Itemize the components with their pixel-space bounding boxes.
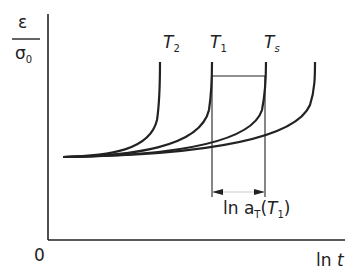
x-axis-label: ln t [316, 252, 344, 269]
curve-t2 [63, 62, 160, 157]
label-t1: T1 [210, 34, 227, 54]
label-t2: T2 [163, 34, 180, 54]
arrow-left-icon [212, 189, 223, 195]
shift-factor-label: ln aT(T1) [223, 200, 290, 220]
y-label-numerator: ε [18, 14, 27, 31]
y-label-denominator: σ0 [15, 45, 32, 65]
arrow-right-icon [254, 189, 265, 195]
label-ts: Ts [264, 34, 280, 54]
origin-label: 0 [34, 247, 45, 264]
curve-t-high [63, 62, 315, 157]
curve-t1 [63, 62, 212, 157]
